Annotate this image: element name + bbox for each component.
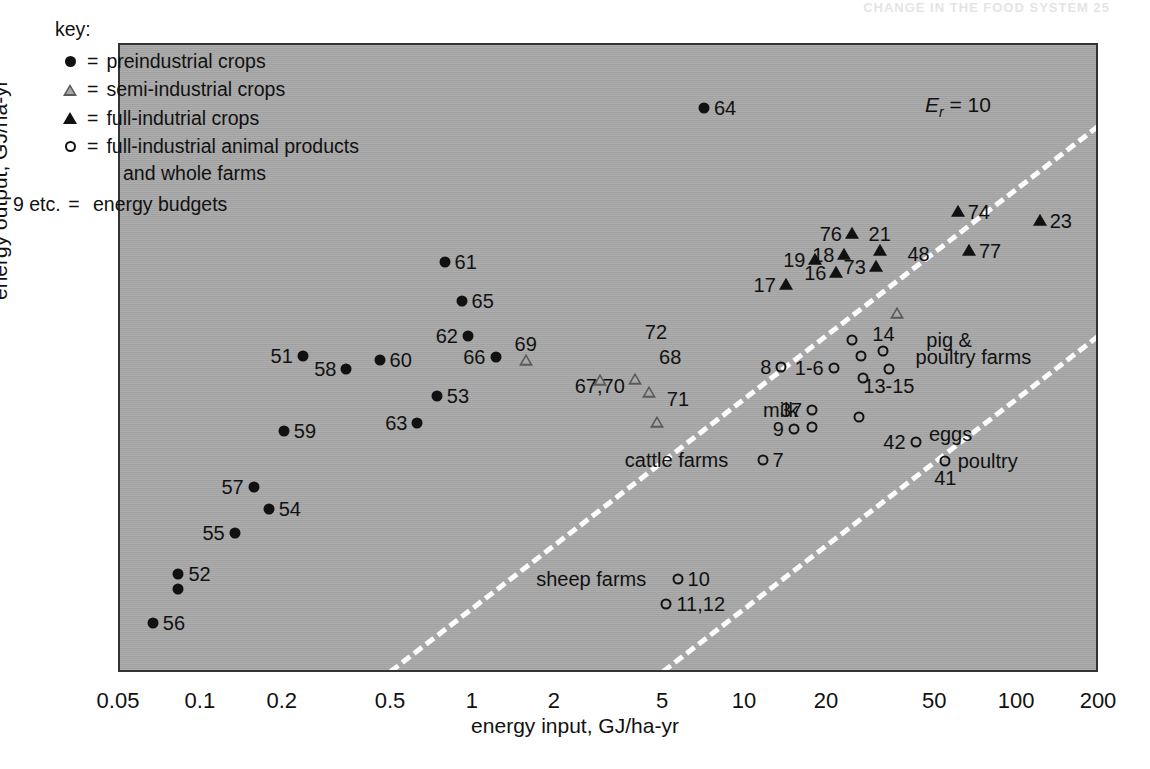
data-point-marker — [456, 296, 467, 307]
data-point-label: 56 — [163, 613, 185, 633]
x-axis-tick-label: 0.05 — [97, 688, 140, 714]
filled-triangle-icon — [55, 112, 85, 124]
data-point-label: 16 — [804, 263, 826, 283]
data-point-marker — [878, 345, 889, 356]
x-axis-tick-label: 10 — [732, 688, 756, 714]
data-point-marker — [779, 277, 793, 289]
data-point-marker — [263, 504, 274, 515]
data-point-marker — [846, 335, 857, 346]
legend: key: = preindustrial crops = semi-indust… — [55, 18, 359, 216]
data-point-label: 8 — [760, 357, 771, 377]
x-axis-tick — [1018, 670, 1020, 672]
data-point-label: 63 — [385, 413, 407, 433]
legend-label: full-indutrial crops — [106, 107, 259, 130]
data-point-marker — [1033, 214, 1047, 226]
y-axis-tick — [118, 611, 120, 613]
data-point-label: 14 — [872, 324, 894, 344]
data-point-label: 21 — [869, 224, 891, 244]
data-point-label: 18 — [812, 245, 834, 265]
x-axis-tick — [746, 670, 748, 672]
data-point-label: 10 — [688, 569, 710, 589]
legend-continuation: and whole farms — [123, 162, 359, 185]
equals-sign: = — [87, 50, 98, 73]
legend-label: semi-industrial crops — [106, 78, 285, 101]
filled-circle-icon — [55, 56, 85, 67]
y-axis-tick — [118, 255, 120, 257]
data-point-marker — [869, 260, 883, 272]
data-point-marker — [829, 266, 843, 278]
legend-budget-row: 9 etc. = energy budgets — [13, 193, 359, 216]
x-axis-tick-label: 200 — [1080, 688, 1117, 714]
data-point-label: 77 — [979, 241, 1001, 261]
data-point-marker — [951, 205, 965, 217]
y-axis-tick — [118, 548, 120, 550]
data-point-marker — [856, 351, 867, 362]
data-point-marker — [698, 103, 709, 114]
data-point-marker — [883, 363, 894, 374]
data-point-label: 64 — [714, 98, 736, 118]
data-point-label: 65 — [472, 291, 494, 311]
data-point-marker — [776, 362, 787, 373]
data-point-label: 13-15 — [863, 376, 914, 396]
x-axis-tick-label: 0.5 — [375, 688, 406, 714]
data-point-marker — [431, 390, 442, 401]
x-axis-title: energy input, GJ/ha-yr — [0, 714, 1150, 738]
open-triangle-icon — [55, 84, 85, 96]
open-circle-icon — [55, 141, 85, 152]
data-point-marker — [248, 481, 259, 492]
data-point-label: 61 — [455, 252, 477, 272]
data-point-label: 57 — [221, 477, 243, 497]
data-point-marker — [910, 436, 921, 447]
data-point-label: 9 — [773, 419, 784, 439]
legend-item-semi-industrial-crops: = semi-industrial crops — [55, 79, 359, 101]
data-point-label: 71 — [667, 389, 689, 409]
data-point-marker — [650, 416, 664, 428]
equals-sign: = — [87, 78, 98, 101]
data-point-label: 73 — [844, 257, 866, 277]
data-point-marker — [828, 363, 839, 374]
data-point-label: 41 — [934, 468, 956, 488]
data-point-marker — [672, 573, 683, 584]
data-point-label: 59 — [294, 421, 316, 441]
y-axis-tick — [118, 401, 120, 403]
data-point-marker — [519, 354, 533, 366]
x-axis-tick-label: 0.2 — [267, 688, 298, 714]
data-point-label: 54 — [279, 499, 301, 519]
data-point-label: 66 — [463, 347, 485, 367]
data-point-label: 69 — [515, 334, 537, 354]
x-axis-tick-label: 5 — [656, 688, 668, 714]
x-axis-tick — [556, 670, 558, 672]
data-point-marker — [962, 244, 976, 256]
x-axis-tick-label: 50 — [922, 688, 946, 714]
data-point-label: 76 — [820, 224, 842, 244]
chart-annotation: cattle farms — [625, 450, 728, 470]
data-point-label: 55 — [202, 523, 224, 543]
x-axis-tick-label: 1 — [466, 688, 478, 714]
data-point-marker — [439, 257, 450, 268]
data-point-marker — [173, 584, 184, 595]
data-point-label: 51 — [271, 346, 293, 366]
data-point-marker — [412, 417, 423, 428]
equals-sign: = — [87, 135, 98, 158]
data-point-label: 7 — [773, 450, 784, 470]
data-point-label: 11,12 — [676, 594, 725, 614]
legend-item-preindustrial-crops: = preindustrial crops — [55, 50, 359, 72]
er-line-label: Er = 10 — [925, 93, 991, 120]
data-point-label: 48 — [907, 244, 929, 264]
data-point-marker — [374, 354, 385, 365]
data-point-marker — [940, 455, 951, 466]
data-point-label: 62 — [436, 326, 458, 346]
x-axis-tick-label: 0.1 — [185, 688, 216, 714]
data-point-label: 53 — [447, 386, 469, 406]
data-point-marker — [788, 423, 799, 434]
data-point-marker — [853, 412, 864, 423]
page-header: CHANGE IN THE FOOD SYSTEM 25 — [0, 0, 1150, 16]
data-point-label: 60 — [390, 350, 412, 370]
equals-sign: = — [87, 107, 98, 130]
x-axis-tick — [936, 670, 938, 672]
data-point-marker — [147, 617, 158, 628]
y-axis-tick — [118, 464, 120, 466]
data-point-marker — [462, 330, 473, 341]
data-point-label: 23 — [1050, 211, 1072, 231]
x-axis-tick — [474, 670, 476, 672]
